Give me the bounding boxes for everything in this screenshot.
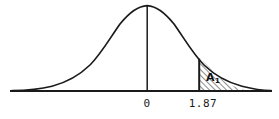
shaded-area-label-subscript: 1 [215, 77, 220, 85]
normal-curve-plot [0, 0, 279, 119]
shaded-area-label-base: A [206, 71, 215, 84]
shaded-area-label: A1 [206, 71, 219, 84]
x-tick-label-zero: 0 [143, 97, 150, 110]
normal-density-curve [12, 6, 271, 91]
x-tick-label-cutoff: 1.87 [189, 97, 218, 110]
normal-curve-figure: 0 1.87 A1 [0, 0, 279, 119]
